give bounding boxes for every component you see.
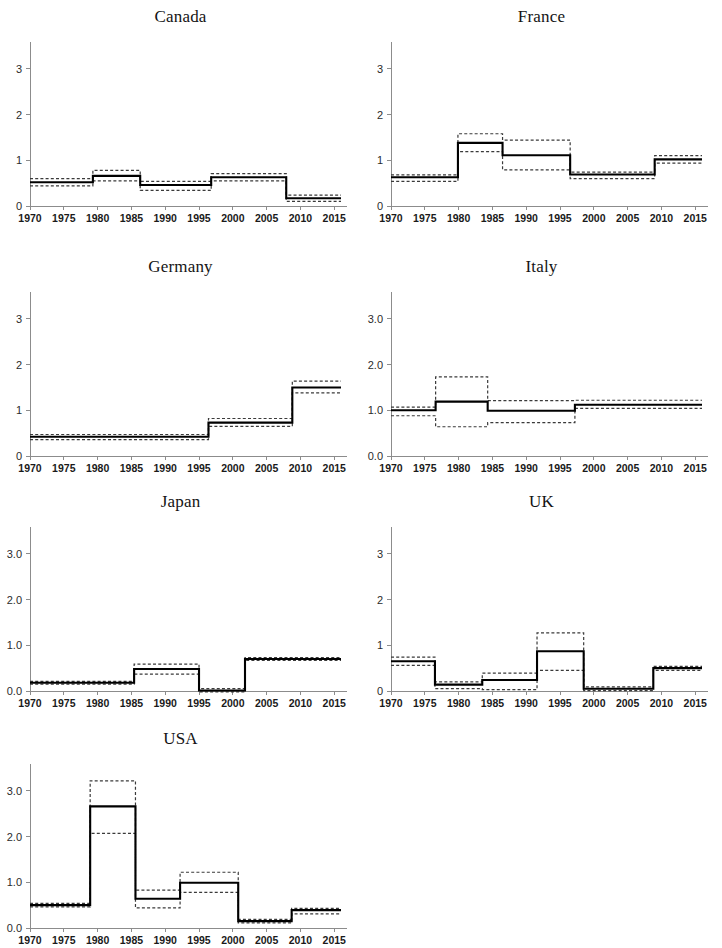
x-tick-label: 2005	[616, 697, 640, 709]
x-tick-label: 1985	[120, 462, 144, 474]
x-tick-label: 1995	[187, 212, 211, 224]
chart-svg-japan: 0.01.02.03.01970197519801985199019952000…	[0, 517, 361, 717]
x-tick-label: 2015	[684, 212, 708, 224]
series-estimate-italy	[391, 402, 702, 411]
x-tick-label: 2005	[255, 462, 279, 474]
y-tick-label: 2	[377, 109, 383, 121]
y-tick-label: 0	[377, 685, 383, 697]
chart-svg-france: 0123197019751980198519901995200020052010…	[361, 32, 722, 232]
y-tick-label: 1.0	[368, 404, 383, 416]
chart-title-canada: Canada	[0, 0, 361, 32]
x-tick-label: 1975	[413, 212, 437, 224]
x-tick-label: 1985	[120, 934, 144, 946]
y-tick-label: 1.0	[7, 876, 22, 888]
series-upper_bound-germany	[30, 381, 341, 434]
x-tick-label: 1975	[413, 462, 437, 474]
x-tick-label: 1990	[515, 697, 539, 709]
x-tick-label: 2010	[650, 212, 674, 224]
x-tick-label: 2015	[323, 697, 347, 709]
x-tick-label: 1970	[18, 697, 42, 709]
x-tick-label: 1990	[154, 934, 178, 946]
x-tick-label: 1985	[481, 212, 505, 224]
series-lower_bound-japan	[30, 660, 341, 692]
x-tick-label: 1980	[447, 697, 471, 709]
x-tick-label: 2000	[221, 212, 245, 224]
x-tick-label: 1985	[481, 697, 505, 709]
x-tick-label: 1980	[86, 697, 110, 709]
x-tick-label: 1970	[18, 462, 42, 474]
y-tick-label: 3.0	[7, 785, 22, 797]
y-tick-label: 3.0	[368, 313, 383, 325]
x-tick-label: 1975	[52, 462, 76, 474]
chart-panel-canada: Canada0123197019751980198519901995200020…	[0, 0, 361, 235]
y-tick-label: 1	[16, 404, 22, 416]
y-tick-label: 0.0	[7, 922, 22, 934]
x-tick-label: 2005	[616, 462, 640, 474]
x-tick-label: 2015	[323, 934, 347, 946]
y-tick-label: 1.0	[7, 639, 22, 651]
y-tick-label: 2.0	[368, 359, 383, 371]
x-tick-label: 1970	[379, 697, 403, 709]
x-tick-label: 1995	[548, 212, 572, 224]
x-tick-label: 2005	[255, 934, 279, 946]
plot-area-japan: 0.01.02.03.01970197519801985199019952000…	[0, 517, 361, 717]
x-tick-label: 1995	[187, 697, 211, 709]
series-upper_bound-uk	[391, 633, 702, 687]
chart-title-usa: USA	[0, 722, 361, 754]
x-tick-label: 1985	[120, 697, 144, 709]
x-tick-label: 2015	[323, 462, 347, 474]
chart-panel-usa: USA0.01.02.03.01970197519801985199019952…	[0, 722, 361, 948]
x-tick-label: 1970	[18, 212, 42, 224]
x-tick-label: 1975	[413, 697, 437, 709]
x-tick-label: 1990	[154, 462, 178, 474]
chart-svg-usa: 0.01.02.03.01970197519801985199019952000…	[0, 754, 361, 948]
x-tick-label: 1980	[86, 462, 110, 474]
x-tick-label: 1975	[52, 212, 76, 224]
series-estimate-germany	[30, 387, 341, 436]
series-estimate-usa	[30, 806, 341, 921]
y-tick-label: 2	[377, 594, 383, 606]
y-tick-label: 1	[377, 154, 383, 166]
chart-title-france: France	[361, 0, 722, 32]
x-tick-label: 2000	[582, 697, 606, 709]
x-tick-label: 1975	[52, 934, 76, 946]
x-tick-label: 2010	[289, 697, 313, 709]
x-tick-label: 2010	[289, 212, 313, 224]
x-tick-label: 2015	[323, 212, 347, 224]
plot-area-canada: 0123197019751980198519901995200020052010…	[0, 32, 361, 232]
y-tick-label: 0	[16, 200, 22, 212]
y-tick-label: 0	[377, 200, 383, 212]
y-tick-label: 1	[16, 154, 22, 166]
chart-svg-italy: 0.01.02.03.01970197519801985199019952000…	[361, 282, 722, 482]
y-tick-label: 3	[16, 313, 22, 325]
x-tick-label: 2010	[289, 462, 313, 474]
x-tick-label: 2000	[221, 934, 245, 946]
plot-area-germany: 0123197019751980198519901995200020052010…	[0, 282, 361, 482]
series-upper_bound-japan	[30, 658, 341, 689]
x-tick-label: 1995	[187, 462, 211, 474]
y-tick-label: 0.0	[7, 685, 22, 697]
x-tick-label: 1975	[52, 697, 76, 709]
x-tick-label: 1995	[548, 697, 572, 709]
x-tick-label: 1970	[379, 462, 403, 474]
series-estimate-france	[391, 143, 702, 177]
x-tick-label: 2010	[289, 934, 313, 946]
plot-area-france: 0123197019751980198519901995200020052010…	[361, 32, 722, 232]
y-tick-label: 0.0	[368, 450, 383, 462]
plot-area-usa: 0.01.02.03.01970197519801985199019952000…	[0, 754, 361, 948]
y-tick-label: 3.0	[7, 548, 22, 560]
y-tick-label: 1	[377, 639, 383, 651]
chart-title-germany: Germany	[0, 250, 361, 282]
chart-svg-uk: 0123197019751980198519901995200020052010…	[361, 517, 722, 717]
x-tick-label: 1990	[154, 697, 178, 709]
chart-panel-germany: Germany012319701975198019851990199520002…	[0, 250, 361, 485]
x-tick-label: 2000	[582, 462, 606, 474]
x-tick-label: 1970	[379, 212, 403, 224]
x-tick-label: 1995	[187, 934, 211, 946]
x-tick-label: 2000	[221, 462, 245, 474]
x-tick-label: 1980	[447, 212, 471, 224]
chart-svg-germany: 0123197019751980198519901995200020052010…	[0, 282, 361, 482]
x-tick-label: 1990	[515, 462, 539, 474]
y-tick-label: 2	[16, 109, 22, 121]
